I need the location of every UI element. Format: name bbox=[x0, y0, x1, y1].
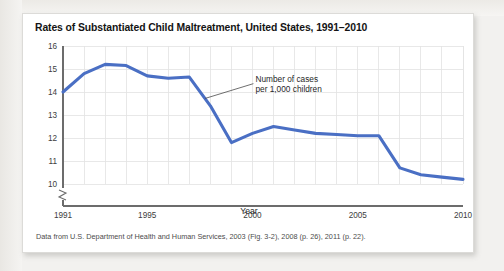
x-axis-title: Year bbox=[240, 206, 258, 216]
x-axis-tick-labels: 19911995200020052010 bbox=[54, 211, 473, 220]
x-tick-label: 1995 bbox=[138, 211, 157, 220]
page-backdrop-left bbox=[0, 0, 22, 271]
annotation-leader-line bbox=[205, 84, 253, 99]
chart-title: Rates of Substantiated Child Maltreatmen… bbox=[35, 22, 367, 33]
y-tick-label: 11 bbox=[49, 157, 58, 166]
x-tick-label: 2005 bbox=[349, 211, 368, 220]
y-tick-label: 10 bbox=[48, 180, 58, 189]
y-tick-label: 13 bbox=[48, 111, 58, 120]
x-tick-label: 1991 bbox=[54, 211, 73, 220]
y-tick-label: 15 bbox=[48, 65, 58, 74]
annotation-line-1: Number of cases bbox=[255, 74, 318, 84]
source-note: Data from U.S. Department of Health and … bbox=[36, 232, 366, 241]
figure-card: Rates of Substantiated Child Maltreatmen… bbox=[22, 13, 474, 253]
series-annotation: Number of casesper 1,000 children bbox=[205, 74, 322, 99]
annotation-line-2: per 1,000 children bbox=[255, 84, 322, 94]
y-tick-label: 16 bbox=[48, 42, 58, 51]
axes bbox=[59, 46, 463, 206]
screenshot-root: Rates of Substantiated Child Maltreatmen… bbox=[0, 0, 504, 271]
plot-area: 16151413121110 19911995200020052010 Numb… bbox=[23, 40, 475, 220]
y-tick-label: 12 bbox=[48, 134, 58, 143]
line-chart: 16151413121110 19911995200020052010 Numb… bbox=[23, 40, 475, 220]
x-tick-label: 2010 bbox=[454, 211, 473, 220]
y-axis-tick-labels: 16151413121110 bbox=[48, 42, 58, 189]
y-tick-label: 14 bbox=[48, 88, 58, 97]
